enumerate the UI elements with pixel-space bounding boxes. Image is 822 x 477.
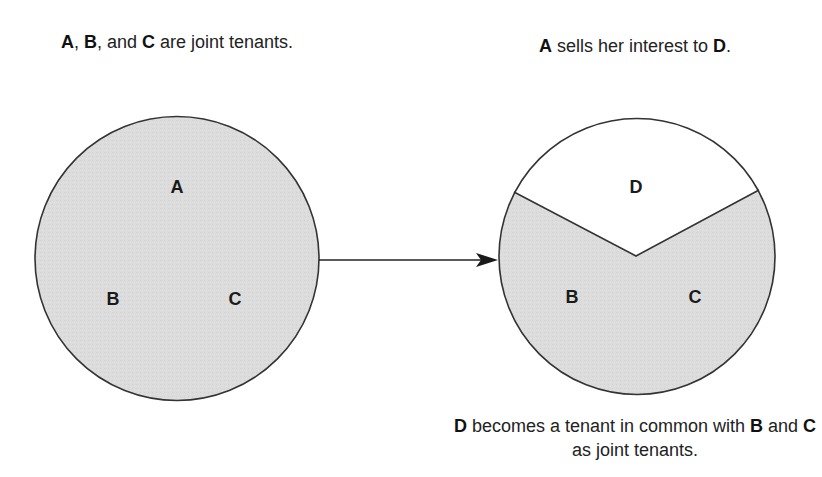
transfer-arrow [319,253,498,267]
owner-label-d: D [630,177,643,197]
joint-tenancy-circle: A B C [35,117,319,401]
joint-tenancy-region [35,117,319,401]
owner-label-a: A [171,177,184,197]
after-transfer-circle: D B C [470,119,800,421]
owner-label-b: B [107,289,120,309]
owner-label-c-after: C [689,287,702,307]
owner-label-b-after: B [566,287,579,307]
ownership-diagram: A B C D B C [0,0,822,477]
owner-label-c: C [229,289,242,309]
